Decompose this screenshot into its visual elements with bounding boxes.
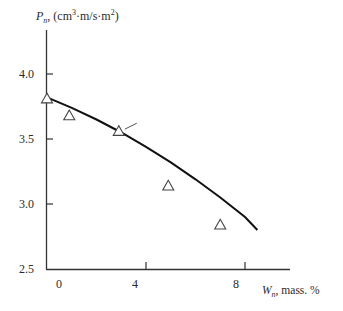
y-tick-label: 3.5 [19, 132, 34, 146]
triangle-marker [113, 126, 124, 136]
y-tick-label: 2.5 [19, 262, 34, 276]
annotation-leader-line [125, 123, 137, 129]
x-ticks: 048 [56, 262, 245, 291]
x-tick-label: 4 [132, 277, 138, 291]
triangle-marker [215, 219, 226, 229]
triangle-marker [163, 180, 174, 190]
y-tick-label: 3.0 [19, 197, 34, 211]
y-tick-label: 4.0 [19, 67, 34, 81]
axes [46, 30, 290, 270]
y-axis-label: Pn, (cm3·m/s·m2) [35, 8, 119, 25]
experimental-points [42, 93, 226, 229]
x-tick-label: 0 [56, 277, 62, 291]
x-axis-label: Wn, mass. % [262, 284, 320, 299]
triangle-marker [64, 110, 75, 120]
calculated-curve [47, 97, 257, 230]
chart: Pn, (cm3·m/s·m2) 2.53.03.54.0 048 Wn, ma… [0, 0, 343, 311]
x-tick-label: 8 [233, 277, 239, 291]
